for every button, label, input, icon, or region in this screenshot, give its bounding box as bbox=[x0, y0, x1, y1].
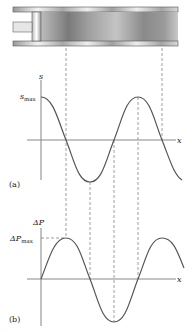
b-pressure-curve bbox=[41, 238, 184, 322]
tube-bottom-wall bbox=[13, 41, 178, 46]
piston-rod bbox=[13, 22, 32, 32]
b-x-axis-label: x bbox=[177, 275, 182, 284]
b-panel-tag: (b) bbox=[9, 315, 20, 324]
b-y-axis-label: ΔP bbox=[32, 218, 45, 227]
piston-head bbox=[32, 12, 41, 41]
a-ymax-label: smax bbox=[20, 92, 37, 102]
a-y-axis-label: s bbox=[39, 72, 43, 81]
a-x-axis-label: x bbox=[177, 136, 182, 145]
sound-wave-diagram: s smax x (a) ΔP ΔPmax x (b) bbox=[0, 0, 192, 332]
tube bbox=[13, 7, 178, 46]
guide-lines bbox=[41, 48, 162, 322]
tube-top-wall bbox=[13, 7, 178, 12]
panel-b: ΔP ΔPmax x (b) bbox=[9, 218, 184, 326]
a-panel-tag: (a) bbox=[9, 180, 20, 189]
tube-gas bbox=[41, 12, 178, 41]
panel-a: s smax x (a) bbox=[9, 72, 182, 189]
b-ymax-label: ΔPmax bbox=[9, 234, 34, 244]
